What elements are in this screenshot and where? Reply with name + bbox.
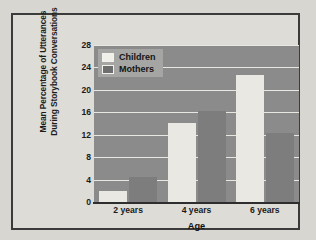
gridline <box>94 112 299 113</box>
y-axis-tick-labels: 0481216202428 <box>69 42 91 204</box>
x-axis-title: Age <box>94 221 299 231</box>
plot-area: Children Mothers <box>94 45 299 202</box>
bar-children-4-years <box>168 123 196 202</box>
y-axis-tick-label: 0 <box>69 197 91 207</box>
x-axis-tick-label: 6 years <box>250 205 280 215</box>
legend-swatch-mothers-icon <box>102 65 114 74</box>
y-axis-tick-label: 12 <box>69 130 91 140</box>
legend-item-mothers: Mothers <box>102 64 156 74</box>
chart-page: Mean Percentage of Utterances During Sto… <box>0 0 316 240</box>
x-axis-tick-labels: 2 years4 years6 years <box>94 205 299 219</box>
y-axis-title-line-1: Mean Percentage of Utterances <box>38 0 49 152</box>
legend-label-children: Children <box>119 52 156 62</box>
legend-label-mothers: Mothers <box>119 64 154 74</box>
figure-frame: Mean Percentage of Utterances During Sto… <box>11 13 300 230</box>
y-axis-tick-label: 16 <box>69 107 91 117</box>
bar-children-6-years <box>236 75 264 202</box>
y-axis-title-line-2: During Storybook Conversations <box>48 0 59 152</box>
gridline <box>94 90 299 91</box>
legend: Children Mothers <box>98 49 163 77</box>
x-axis-tick-label: 2 years <box>113 205 143 215</box>
y-axis-tick-label: 24 <box>69 62 91 72</box>
x-axis-line <box>93 202 300 204</box>
bar-mothers-4-years <box>198 111 226 202</box>
bar-mothers-2-years <box>129 177 157 202</box>
legend-item-children: Children <box>102 52 156 62</box>
y-axis-tick-label: 4 <box>69 175 91 185</box>
legend-swatch-children-icon <box>102 53 114 62</box>
bar-children-2-years <box>99 191 127 202</box>
y-axis-tick-label: 8 <box>69 152 91 162</box>
y-axis-tick-label: 28 <box>69 40 91 50</box>
y-axis-title: Mean Percentage of Utterances During Sto… <box>38 0 59 152</box>
bar-mothers-6-years <box>266 133 294 202</box>
x-axis-tick-label: 4 years <box>182 205 212 215</box>
y-axis-tick-label: 20 <box>69 85 91 95</box>
gridline <box>94 45 299 46</box>
